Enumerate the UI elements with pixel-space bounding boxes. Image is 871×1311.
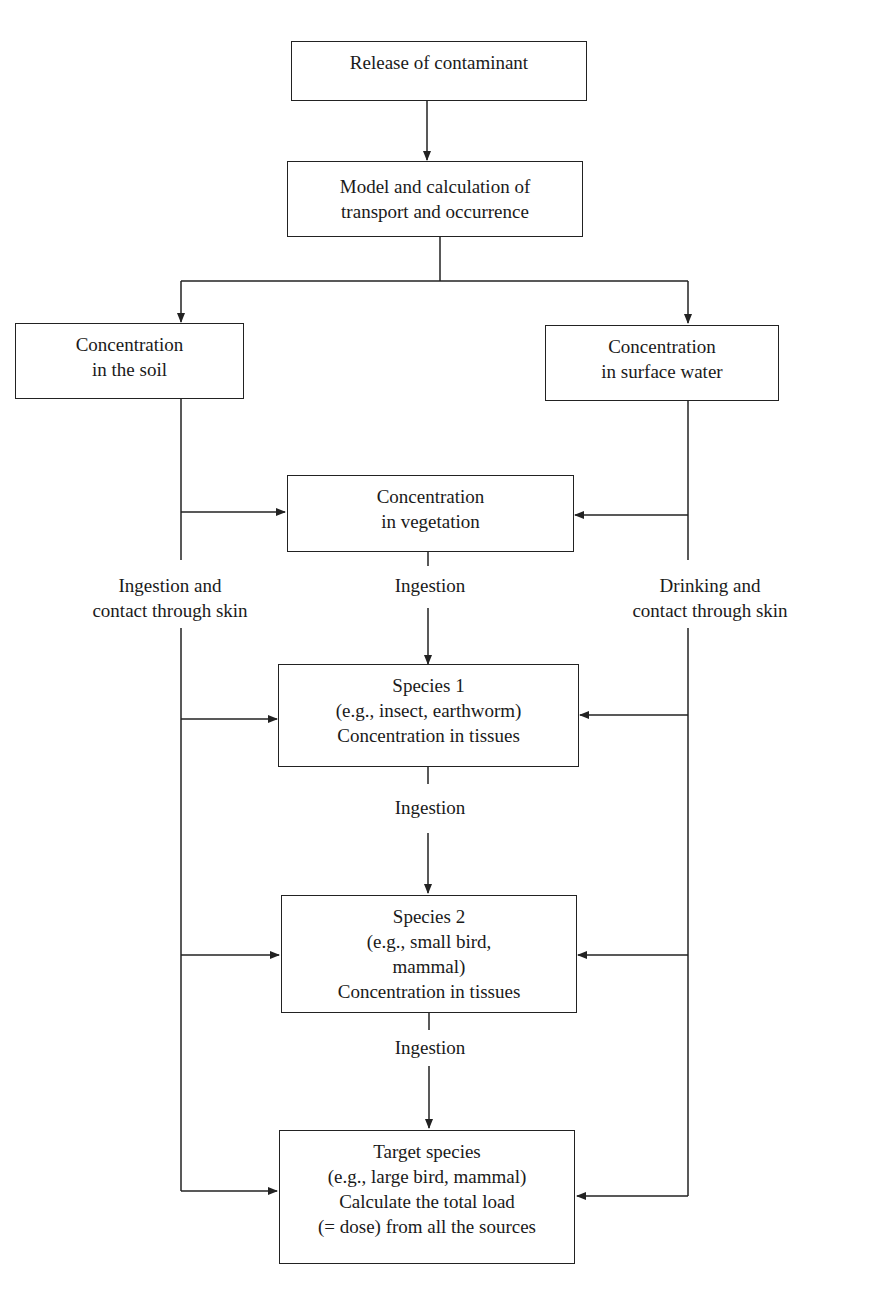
species2-line-3: mammal) [393,954,466,979]
species2-node: Species 2 (e.g., small bird, mammal) Con… [281,895,577,1013]
model-node: Model and calculation of transport and o… [287,161,583,237]
target-line-1: Target species [373,1139,481,1164]
water-path-label: Drinking and contact through skin [580,573,840,623]
soil-path-line-2: contact through skin [40,598,300,623]
water-node: Concentration in surface water [545,325,779,401]
vegetation-line-2: in vegetation [381,509,480,534]
vegetation-node: Concentration in vegetation [287,475,574,552]
soil-path-label: Ingestion and contact through skin [40,573,300,623]
veg-ingestion-label: Ingestion [360,573,500,598]
soil-line-2: in the soil [92,357,167,382]
species1-ingestion-text: Ingestion [360,795,500,820]
soil-line-1: Concentration [76,332,184,357]
species1-line-1: Species 1 [392,673,464,698]
model-line-2: transport and occurrence [341,199,529,224]
species1-ingestion-label: Ingestion [360,795,500,820]
soil-path-line-1: Ingestion and [40,573,300,598]
species2-line-2: (e.g., small bird, [367,929,492,954]
species2-ingestion-text: Ingestion [360,1035,500,1060]
species2-ingestion-label: Ingestion [360,1035,500,1060]
veg-ingestion-text: Ingestion [360,573,500,598]
species2-line-1: Species 2 [393,904,465,929]
vegetation-line-1: Concentration [377,484,485,509]
water-line-1: Concentration [608,334,716,359]
release-line-1: Release of contaminant [350,50,528,75]
species1-line-3: Concentration in tissues [337,723,520,748]
species2-line-4: Concentration in tissues [338,979,521,1004]
water-path-line-1: Drinking and [580,573,840,598]
target-line-4: (= dose) from all the sources [318,1214,536,1239]
release-node: Release of contaminant [291,41,587,101]
water-path-line-2: contact through skin [580,598,840,623]
soil-node: Concentration in the soil [15,323,244,399]
water-line-2: in surface water [601,359,722,384]
target-node: Target species (e.g., large bird, mammal… [279,1130,575,1264]
model-line-1: Model and calculation of [340,174,530,199]
species1-node: Species 1 (e.g., insect, earthworm) Conc… [278,664,579,767]
target-line-2: (e.g., large bird, mammal) [328,1164,527,1189]
species1-line-2: (e.g., insect, earthworm) [336,698,522,723]
target-line-3: Calculate the total load [339,1189,515,1214]
